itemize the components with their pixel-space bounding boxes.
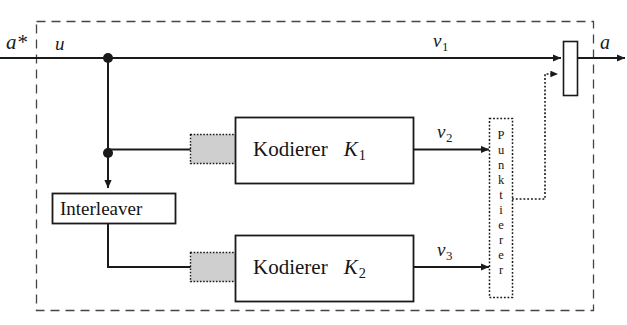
label-systematic-output: v1: [433, 31, 448, 54]
label-parity1-output: v2: [437, 122, 452, 145]
puncturer-letter: i: [499, 203, 502, 218]
label-input-source: a*: [6, 32, 27, 53]
puncturer-letter: e: [498, 218, 504, 233]
edge-puncturer-to-mux: [512, 74, 558, 199]
label-input-info: u: [55, 34, 65, 53]
puncturer-letter: u: [498, 143, 504, 158]
puncturer-letter: t: [499, 188, 502, 203]
puncturer-letter: r: [499, 263, 503, 278]
label-parity2-output: v3: [437, 240, 452, 263]
puncturer-letter: k: [498, 173, 504, 188]
puncturer-letter: r: [499, 233, 503, 248]
puncturer-label: P u n k t i e r e r: [491, 128, 511, 278]
encoder1-input-pad: [191, 135, 238, 164]
multiplexer-box[interactable]: [564, 42, 578, 96]
interleaver-label: Interleaver: [60, 199, 142, 218]
puncturer-letter: P: [498, 128, 505, 143]
junction-dot-top: [103, 53, 113, 63]
puncturer-letter: e: [498, 248, 504, 263]
figure-canvas: a* u v1 v2 v3 a KodiererK1 KodiererK2 In…: [0, 0, 627, 325]
puncturer-letter: n: [498, 158, 504, 173]
encoder1-label: KodiererK1: [253, 139, 366, 163]
label-output: a: [600, 32, 610, 52]
encoder2-input-pad: [191, 253, 238, 282]
encoder2-label: KodiererK2: [253, 257, 366, 281]
